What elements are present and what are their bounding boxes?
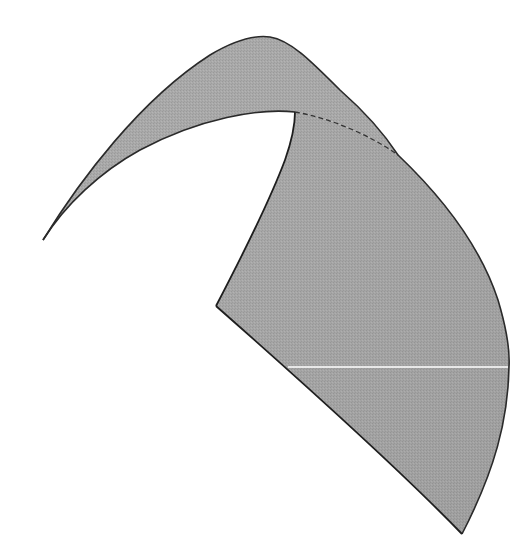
surface-patch-diagram [0,0,532,557]
figure-canvas [0,0,532,557]
surface-shading [216,112,509,534]
